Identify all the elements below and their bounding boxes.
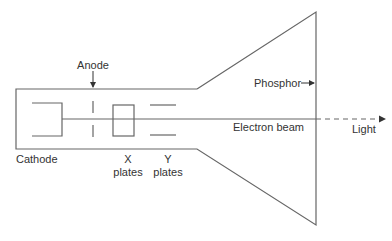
light-label: Light <box>352 123 376 135</box>
phosphor-label: Phosphor <box>254 77 301 89</box>
y-plates-label-1: Y <box>164 153 172 165</box>
cathode-label: Cathode <box>16 153 58 165</box>
anode-label: Anode <box>77 59 109 71</box>
x-plates <box>113 105 134 136</box>
x-plates-label-1: X <box>124 153 132 165</box>
y-plates-label-2: plates <box>153 166 183 178</box>
electron-beam-label: Electron beam <box>233 121 304 133</box>
cathode-electrode <box>32 103 62 136</box>
crt-diagram: Anode Cathode X plates Y plates Phosphor… <box>0 0 392 241</box>
x-plates-label-2: plates <box>113 166 143 178</box>
